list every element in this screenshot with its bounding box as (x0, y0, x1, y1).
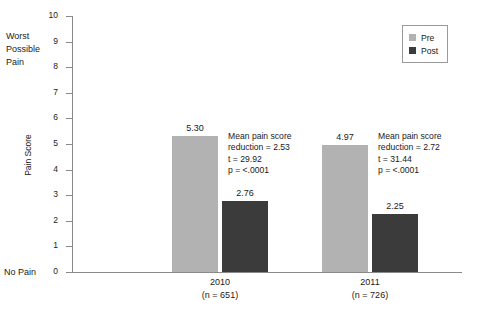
bar-2010-pre[interactable] (172, 136, 218, 272)
y-tick-mark (66, 144, 72, 145)
y-tick-mark (66, 42, 72, 43)
annotation-2010: Mean pain scorereduction = 2.53t = 29.92… (228, 131, 292, 177)
annotation-line-3: t = 31.44 (378, 154, 442, 165)
annotation-line-3: t = 29.92 (228, 154, 292, 165)
x-axis-label-2010: 2010(n = 651) (170, 276, 270, 302)
annotation-line-1: Mean pain score (378, 131, 442, 142)
y-axis-line (72, 16, 73, 272)
x-axis-label-sample-size: (n = 651) (170, 289, 270, 302)
annotation-2011: Mean pain scorereduction = 2.72t = 31.44… (378, 131, 442, 177)
legend-label-pre: Pre (421, 33, 434, 43)
y-tick-label: 7 (36, 88, 58, 97)
y-tick-label: 0 (36, 267, 58, 276)
legend-item-pre[interactable]: Pre (409, 31, 438, 44)
bar-value-label-2011-post: 2.25 (372, 201, 418, 211)
legend: Pre Post (402, 25, 448, 63)
y-tick-label: 8 (36, 62, 58, 71)
pain-score-bar-chart: Worst Possible Pain No Pain Pain Score 1… (0, 0, 482, 309)
y-tick-mark (66, 67, 72, 68)
y-tick-label: 10 (36, 11, 58, 20)
y-tick-label: 5 (36, 139, 58, 148)
bar-value-label-2010-pre: 5.30 (172, 123, 218, 133)
bar-2011-pre[interactable] (322, 145, 368, 272)
legend-label-post: Post (421, 46, 438, 56)
y-tick-label: 4 (36, 165, 58, 174)
y-tick-label: 6 (36, 113, 58, 122)
bar-2011-post[interactable] (372, 214, 418, 272)
bar-2010-post[interactable] (222, 201, 268, 272)
annotation-line-2: reduction = 2.53 (228, 142, 292, 153)
legend-swatch-post-icon (409, 47, 416, 54)
y-tick-mark (66, 93, 72, 94)
axis-anchor-no-pain: No Pain (4, 267, 36, 278)
annotation-line-4: p = <.0001 (228, 165, 292, 176)
annotation-line-1: Mean pain score (228, 131, 292, 142)
y-tick-mark (66, 221, 72, 222)
y-tick-label: 3 (36, 190, 58, 199)
y-tick-mark (66, 272, 72, 273)
annotation-line-2: reduction = 2.72 (378, 142, 442, 153)
y-tick-mark (66, 118, 72, 119)
y-tick-label: 1 (36, 241, 58, 250)
y-tick-label: 9 (36, 37, 58, 46)
legend-swatch-pre-icon (409, 34, 416, 41)
y-tick-mark (66, 16, 72, 17)
y-axis-title: Pain Score (23, 120, 33, 190)
bar-value-label-2011-pre: 4.97 (322, 132, 368, 142)
y-tick-label: 2 (36, 216, 58, 225)
x-axis-line (72, 272, 462, 273)
x-axis-label-year: 2010 (170, 276, 270, 289)
legend-item-post[interactable]: Post (409, 44, 438, 57)
x-axis-label-2011: 2011(n = 726) (320, 276, 420, 302)
x-axis-label-year: 2011 (320, 276, 420, 289)
annotation-line-4: p = <.0001 (378, 165, 442, 176)
y-tick-mark (66, 246, 72, 247)
y-tick-mark (66, 195, 72, 196)
x-axis-label-sample-size: (n = 726) (320, 289, 420, 302)
bar-value-label-2010-post: 2.76 (222, 188, 268, 198)
y-tick-mark (66, 170, 72, 171)
